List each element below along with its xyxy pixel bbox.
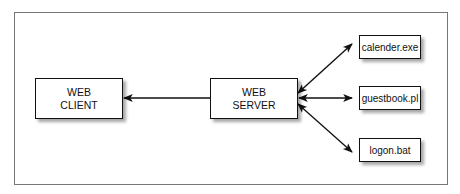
arrow-server-calender [298, 44, 352, 93]
web-server-label-line1: WEB [233, 86, 276, 99]
guestbook-pl-label: guestbook.pl [362, 92, 419, 105]
guestbook-pl-node: guestbook.pl [359, 86, 421, 110]
logon-bat-node: logon.bat [359, 138, 421, 162]
web-server-label-line2: SERVER [233, 99, 276, 112]
arrow-server-logon [298, 104, 352, 152]
web-client-label-line2: CLIENT [60, 99, 97, 112]
calender-exe-label: calender.exe [362, 41, 419, 54]
web-client-node: WEB CLIENT [35, 78, 123, 119]
logon-bat-label: logon.bat [369, 144, 410, 157]
calender-exe-node: calender.exe [359, 35, 421, 59]
web-server-node: WEB SERVER [210, 78, 298, 119]
web-client-label-line1: WEB [60, 86, 97, 99]
